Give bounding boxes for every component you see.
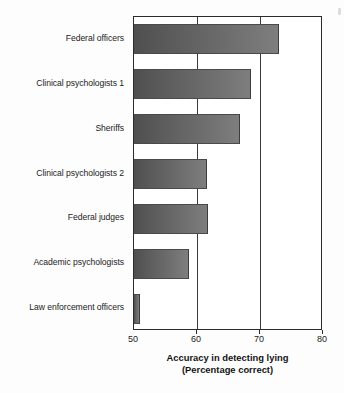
axis-title-subtitle: (Percentage correct) bbox=[120, 364, 335, 376]
bar bbox=[134, 294, 140, 324]
tick-label: 60 bbox=[191, 335, 201, 344]
category-label: Federal judges bbox=[68, 213, 124, 222]
value-axis-ticks: 50607080 bbox=[133, 330, 322, 352]
bar bbox=[134, 69, 251, 99]
bar bbox=[134, 24, 279, 54]
category-label: Law enforcement officers bbox=[29, 303, 124, 312]
tick-label: 50 bbox=[128, 335, 138, 344]
bar bbox=[134, 249, 189, 279]
category-label: Federal officers bbox=[66, 34, 124, 43]
bar bbox=[134, 159, 207, 189]
category-label: Academic psychologists bbox=[33, 258, 124, 267]
category-label: Clinical psychologists 1 bbox=[36, 79, 124, 88]
bar bbox=[134, 114, 240, 144]
horizontal-bar-chart: Federal officersClinical psychologists 1… bbox=[0, 0, 344, 393]
tick-label: 70 bbox=[254, 335, 264, 344]
plot-area bbox=[133, 16, 322, 330]
scan-artifact bbox=[338, 8, 341, 15]
category-label: Sheriffs bbox=[95, 124, 124, 133]
gridline-70 bbox=[260, 17, 261, 329]
category-label: Clinical psychologists 2 bbox=[36, 169, 124, 178]
axis-title-main: Accuracy in detecting lying bbox=[120, 352, 335, 364]
axis-title: Accuracy in detecting lying (Percentage … bbox=[120, 352, 335, 376]
bar bbox=[134, 204, 208, 234]
tick-label: 80 bbox=[317, 335, 327, 344]
category-axis-labels: Federal officersClinical psychologists 1… bbox=[0, 16, 128, 330]
